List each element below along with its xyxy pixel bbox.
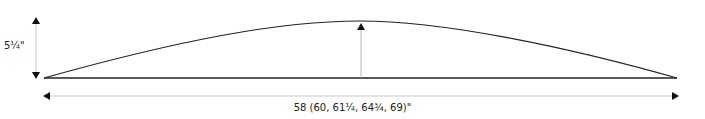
width-label: 58 (60, 61¼, 64¾, 69)" bbox=[0, 102, 705, 113]
curve-top-edge bbox=[44, 21, 677, 78]
height-label: 5¼" bbox=[4, 40, 25, 51]
